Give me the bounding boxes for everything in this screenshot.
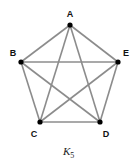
nodes [18,22,120,124]
node-A [67,22,72,27]
node-label-C: C [31,129,38,139]
node-D [97,119,102,124]
complete-graph-k5: ABECD K5 [0,0,138,162]
edge-A-D [70,25,100,122]
edge-D-E [100,62,118,122]
edge-A-B [21,25,70,62]
edge-B-C [21,62,40,122]
node-E [115,59,120,64]
node-C [37,119,42,124]
edges [21,25,118,122]
edge-A-E [70,25,118,62]
node-label-D: D [103,129,110,139]
edge-C-E [40,62,118,122]
edge-B-D [21,62,100,122]
node-label-E: E [123,48,129,58]
node-B [18,59,23,64]
edge-A-C [40,25,70,122]
caption-subscript: 5 [70,151,74,160]
node-label-B: B [10,48,17,58]
caption: K5 [62,145,74,160]
node-label-A: A [67,9,74,19]
